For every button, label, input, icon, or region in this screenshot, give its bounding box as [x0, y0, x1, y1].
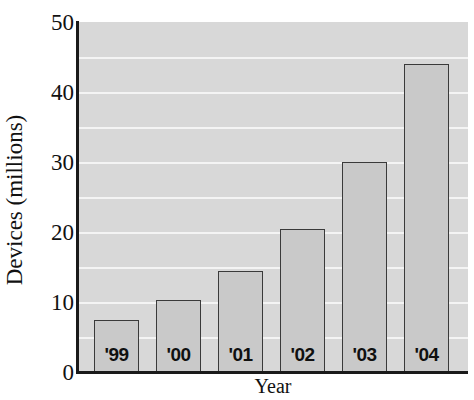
- bar-category-label: '03: [343, 344, 386, 366]
- bar-category-label: '00: [157, 344, 200, 366]
- y-tick-label: 40: [32, 81, 74, 104]
- y-axis-tick-labels: 01020304050: [30, 0, 74, 400]
- bar-category-label: '02: [281, 344, 324, 366]
- y-tick-label: 0: [32, 361, 74, 384]
- y-tick-label: 50: [32, 11, 74, 34]
- bar-category-label: '04: [405, 344, 448, 366]
- bar: '99: [94, 320, 139, 373]
- bar: '01: [218, 271, 263, 373]
- bar-category-label: '99: [95, 344, 138, 366]
- bar-category-label: '01: [219, 344, 262, 366]
- y-axis-title: Devices (millions): [0, 0, 30, 400]
- bar-chart-figure: Devices (millions) 01020304050 '99'00'01…: [0, 0, 474, 400]
- bar: '04: [404, 64, 449, 372]
- bar: '03: [342, 162, 387, 372]
- y-axis-line: [76, 21, 79, 373]
- y-tick-label: 10: [32, 291, 74, 314]
- y-tick-label: 30: [32, 151, 74, 174]
- bar-series: '99'00'01'02'03'04: [78, 22, 468, 372]
- x-axis-title: Year: [78, 375, 468, 398]
- bar: '00: [156, 300, 201, 372]
- x-axis-line: [76, 371, 468, 374]
- y-tick-label: 20: [32, 221, 74, 244]
- plot-area: '99'00'01'02'03'04: [78, 22, 468, 372]
- bar: '02: [280, 229, 325, 373]
